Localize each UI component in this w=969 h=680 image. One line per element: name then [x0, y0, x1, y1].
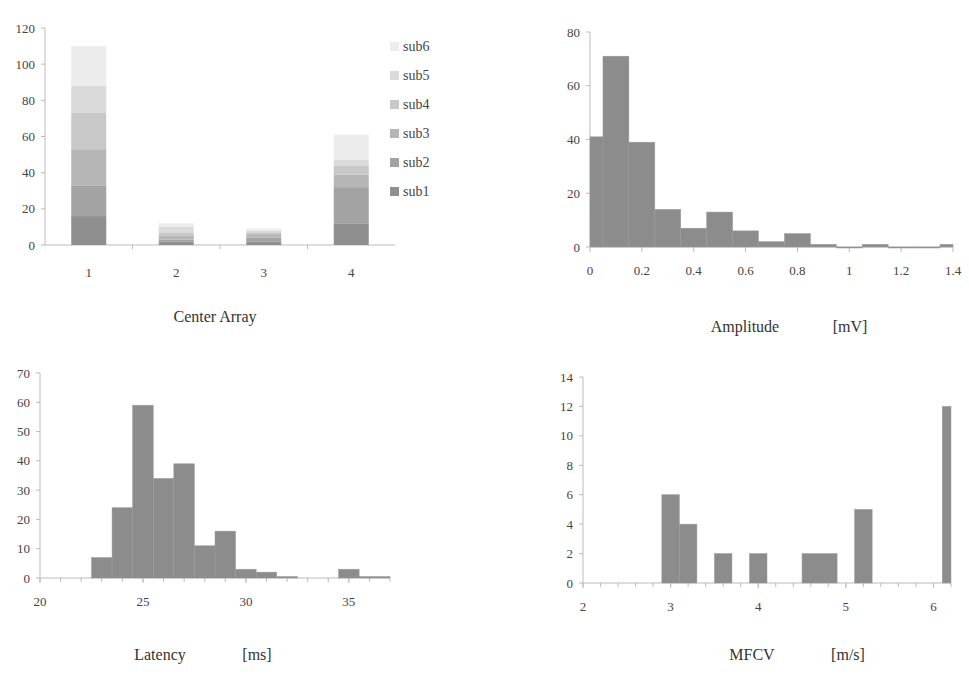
histogram-bar — [236, 569, 257, 578]
x-tick-label: 30 — [239, 594, 252, 609]
histogram-bar — [707, 212, 733, 247]
histogram-bar — [942, 406, 951, 583]
histogram-bar — [679, 524, 697, 583]
x-tick-label: 0.2 — [634, 263, 650, 278]
stacked-bar-segment-sub4 — [334, 165, 369, 174]
y-tick-label: 12 — [560, 399, 573, 414]
figure-canvas: 0204060801001201234sub6sub5sub4sub3sub2s… — [0, 0, 969, 680]
legend: sub6sub5sub4sub3sub2sub1 — [390, 39, 429, 199]
stacked-bar-segment-sub4 — [159, 232, 194, 236]
y-tick-label: 14 — [560, 370, 574, 385]
stacked-bar-segment-sub2 — [71, 185, 106, 216]
x-tick-label: 20 — [34, 594, 47, 609]
histogram-bar — [133, 405, 154, 578]
center-array-chart: 0204060801001201234sub6sub5sub4sub3sub2s… — [16, 21, 430, 281]
histogram-bar — [277, 577, 298, 578]
histogram-bar — [855, 509, 873, 583]
x-tick-label: 1 — [846, 263, 853, 278]
histogram-bar — [91, 558, 112, 579]
y-tick-label: 120 — [16, 21, 36, 36]
histogram-bar — [590, 137, 603, 247]
histogram-bar — [174, 464, 195, 578]
x-tick-label: 1 — [86, 265, 93, 280]
x-tick-label: 1.2 — [893, 263, 909, 278]
stacked-bar-segment-sub4 — [246, 232, 281, 234]
stacked-bar-segment-sub6 — [71, 46, 106, 86]
x-tick-label: 0 — [587, 263, 594, 278]
x-tick-label: 0.6 — [737, 263, 754, 278]
histogram-bar — [655, 209, 681, 247]
y-tick-label: 30 — [17, 483, 30, 498]
histogram-bar — [681, 228, 707, 247]
y-tick-label: 6 — [567, 487, 574, 502]
y-tick-label: 60 — [17, 395, 30, 410]
stacked-bar-segment-sub5 — [246, 231, 281, 233]
stacked-bar-segment-sub3 — [334, 174, 369, 187]
stacked-bar-segment-sub2 — [334, 187, 369, 223]
mfcv-histogram: 0246810121423456 — [560, 370, 951, 615]
y-tick-label: 20 — [22, 201, 35, 216]
y-tick-label: 8 — [567, 458, 574, 473]
y-tick-label: 60 — [567, 78, 580, 93]
histogram-bar — [784, 234, 810, 247]
stacked-bar-segment-sub6 — [246, 229, 281, 231]
stacked-bar-segment-sub3 — [159, 236, 194, 240]
histogram-bar — [662, 495, 680, 583]
y-tick-label: 20 — [567, 186, 580, 201]
stacked-bar-segment-sub2 — [246, 238, 281, 242]
stacked-bar-segment-sub6 — [159, 223, 194, 227]
histogram-bar — [749, 554, 767, 583]
histogram-bar — [215, 531, 236, 578]
x-tick-label: 3 — [261, 265, 268, 280]
histogram-bar — [629, 142, 655, 247]
histogram-bar — [836, 247, 862, 248]
histogram-bar — [888, 247, 914, 248]
y-tick-label: 0 — [29, 238, 36, 253]
latency-xlabel-name: Latency — [134, 646, 186, 664]
legend-swatch-sub4 — [390, 100, 399, 109]
y-tick-label: 20 — [17, 512, 30, 527]
y-tick-label: 40 — [17, 453, 30, 468]
y-tick-label: 70 — [17, 366, 30, 381]
y-tick-label: 60 — [22, 129, 35, 144]
stacked-bar-segment-sub1 — [159, 241, 194, 245]
x-tick-label: 6 — [930, 599, 937, 614]
histogram-bar — [802, 554, 837, 583]
legend-swatch-sub3 — [390, 129, 399, 138]
x-tick-label: 2 — [580, 599, 587, 614]
histogram-bar — [714, 554, 732, 583]
histogram-bar — [940, 244, 953, 247]
y-tick-label: 40 — [567, 132, 580, 147]
y-tick-label: 0 — [574, 240, 581, 255]
y-tick-label: 0 — [567, 576, 574, 591]
y-tick-label: 80 — [22, 93, 35, 108]
y-tick-label: 40 — [22, 165, 35, 180]
legend-label-sub1: sub1 — [403, 184, 429, 199]
x-tick-label: 0.4 — [686, 263, 703, 278]
stacked-bar-segment-sub3 — [246, 234, 281, 238]
amplitude-xlabel-unit: [mV] — [833, 318, 868, 335]
histogram-bar — [359, 577, 390, 578]
legend-label-sub2: sub2 — [403, 155, 429, 170]
x-tick-label: 35 — [342, 594, 355, 609]
histogram-bar — [914, 247, 940, 248]
stacked-bar-segment-sub5 — [159, 227, 194, 232]
x-tick-label: 5 — [843, 599, 850, 614]
stacked-bar-segment-sub6 — [334, 135, 369, 160]
x-tick-label: 1.4 — [945, 263, 962, 278]
histogram-bar — [339, 569, 360, 578]
stacked-bar-segment-sub3 — [71, 149, 106, 185]
x-tick-label: 4 — [348, 265, 355, 280]
mfcv-xlabel-unit: [m/s] — [831, 646, 865, 663]
y-tick-label: 100 — [16, 57, 36, 72]
latency-xlabel-unit: [ms] — [242, 646, 271, 663]
legend-swatch-sub2 — [390, 158, 399, 167]
amplitude-histogram: 02040608000.20.40.60.811.21.4 — [567, 25, 962, 279]
histogram-bar — [810, 244, 836, 247]
legend-swatch-sub5 — [390, 71, 399, 80]
legend-swatch-sub6 — [390, 42, 399, 51]
stacked-bar-segment-sub2 — [159, 240, 194, 242]
y-tick-label: 2 — [567, 546, 574, 561]
y-tick-label: 50 — [17, 424, 30, 439]
y-tick-label: 10 — [560, 428, 573, 443]
